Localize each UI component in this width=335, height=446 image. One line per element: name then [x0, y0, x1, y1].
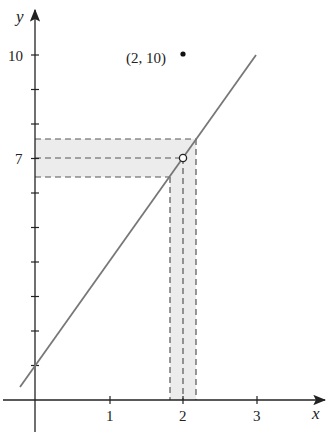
x-axis-label: x [311, 404, 320, 423]
x-tick-label-1: 1 [106, 408, 114, 424]
chart-canvas: y x 10 7 1 2 3 (2, 10) [0, 0, 335, 446]
y-axis-label: y [14, 7, 24, 26]
point-label: (2, 10) [126, 50, 166, 67]
open-point-icon [179, 154, 186, 161]
function-line [20, 55, 256, 387]
filled-point-icon [180, 51, 185, 56]
y-tick-label-7: 7 [15, 151, 23, 167]
x-tick-label-3: 3 [253, 408, 261, 424]
x-tick-label-2: 2 [179, 408, 187, 424]
chart-figure: y x 10 7 1 2 3 (2, 10) [0, 0, 335, 446]
y-tick-label-10: 10 [8, 48, 23, 64]
